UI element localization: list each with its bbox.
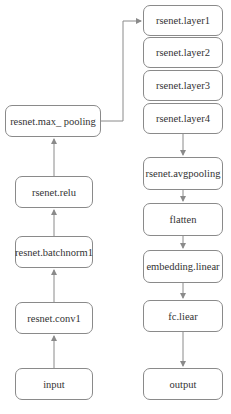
node-layer4: rsenet.layer4 [143,103,223,134]
node-max-pooling: resnet.max_ pooling [5,105,101,137]
node-avgpooling: rsenet.avgpooling [143,157,223,190]
node-fc-liear: fc.liear [143,300,223,332]
node-relu: rsenet.relu [15,176,93,208]
node-layer3: rsenet.layer3 [143,70,223,101]
node-output: output [143,368,223,400]
node-input: input [15,368,93,400]
node-conv1: resnet.conv1 [15,302,93,334]
node-flatten: flatten [143,203,223,236]
node-batchnorm1: resnet.batchnorm1 [15,236,93,268]
node-layer1: rsenet.layer1 [143,5,223,36]
edge-maxpool-layer1 [101,21,141,121]
node-embedding-linear: embedding.linear [143,250,223,283]
node-layer2: rsenet.layer2 [143,37,223,68]
